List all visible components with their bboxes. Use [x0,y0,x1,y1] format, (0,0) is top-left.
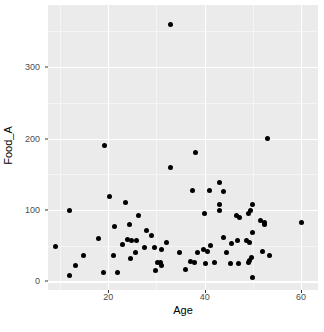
data-point [133,250,138,255]
data-point [208,243,213,248]
data-point [250,275,255,280]
data-point [207,188,212,193]
data-point [221,235,226,240]
x-axis-tick-label: 60 [289,293,313,302]
data-point [112,224,117,229]
data-point [134,238,139,243]
data-point [236,261,241,266]
data-point [107,194,112,199]
data-point [267,253,272,258]
data-point [212,260,217,265]
data-point [246,211,251,216]
data-point [195,250,200,255]
data-point [168,165,173,170]
data-point [229,241,234,246]
grid-line-minor-horizontal [48,31,318,32]
grid-line-major-horizontal [48,281,318,282]
grid-line-minor-vertical [60,5,61,290]
data-point [246,260,251,265]
y-axis-tick-label: 300 [14,63,40,72]
data-point [159,263,164,268]
data-point [250,230,255,235]
grid-line-minor-horizontal [48,174,318,175]
data-point [237,215,242,220]
data-point [159,247,164,252]
data-point [136,213,141,218]
grid-line-minor-horizontal [48,103,318,104]
data-point [111,253,116,258]
x-axis-title: Age [48,305,318,316]
data-point [144,228,149,233]
data-point [67,273,72,278]
data-point [221,189,226,194]
data-point [250,202,255,207]
data-point [177,250,182,255]
data-point [203,261,208,266]
y-axis-tick-label: 0 [14,277,40,286]
data-point [168,22,173,27]
data-point [102,143,107,148]
y-axis-title-text: Food_A [3,126,14,165]
data-point [183,267,188,272]
data-point [202,211,207,216]
data-point [193,150,198,155]
grid-line-major-vertical [301,5,302,290]
data-point [265,136,270,141]
data-point [81,253,86,258]
data-point [127,222,132,227]
data-point [260,249,265,254]
data-point [115,270,120,275]
data-point [224,250,229,255]
scatter-plot-figure: Food_A 0100200300 204060 Age [0,0,324,332]
data-point [192,260,197,265]
data-point [142,245,147,250]
data-point [153,268,158,273]
grid-line-major-horizontal [48,67,318,68]
data-point [101,270,106,275]
grid-line-major-horizontal [48,210,318,211]
data-point [235,238,240,243]
data-point [120,242,125,247]
data-point [53,244,58,249]
data-point [164,240,169,245]
data-point [247,240,252,245]
data-point [123,200,128,205]
data-point [152,245,157,250]
data-point [262,222,267,227]
y-axis-tick-label: 200 [14,134,40,143]
data-point [205,249,210,254]
x-axis-tick-label: 20 [96,293,120,302]
data-point [228,261,233,266]
data-point [217,202,222,207]
plot-panel [48,5,318,290]
data-point [299,220,304,225]
grid-line-minor-horizontal [48,246,318,247]
data-point [128,256,133,261]
data-point [190,188,195,193]
data-point [217,180,222,185]
data-point [73,263,78,268]
grid-line-minor-vertical [253,5,254,290]
grid-line-major-horizontal [48,139,318,140]
data-point [96,236,101,241]
data-point [149,233,154,238]
y-axis-tick-labels: 0100200300 [14,0,40,290]
x-axis-tick-label: 40 [193,293,217,302]
data-point [217,208,222,213]
grid-line-major-vertical [108,5,109,290]
data-point [67,208,72,213]
y-axis-tick-label: 100 [14,206,40,215]
